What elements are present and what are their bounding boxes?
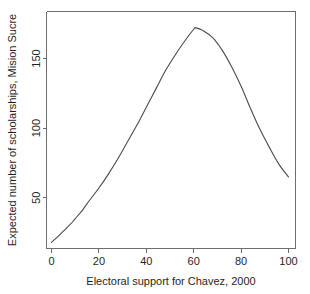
y-tick-label: 150 xyxy=(30,49,42,67)
x-tick-label: 20 xyxy=(93,255,105,267)
x-tick-label: 40 xyxy=(140,255,152,267)
chart-svg: 50100150 020406080100 Electoral support … xyxy=(0,0,310,294)
x-tick-label: 0 xyxy=(48,255,54,267)
chart-container: 50100150 020406080100 Electoral support … xyxy=(0,0,310,294)
y-axis-ticks: 50100150 xyxy=(30,49,46,204)
plot-frame xyxy=(47,12,296,249)
x-tick-label: 100 xyxy=(279,255,297,267)
x-tick-label: 60 xyxy=(188,255,200,267)
data-curve-expected-scholarships xyxy=(52,28,289,243)
y-axis-title: Expected number of scholarships, Mision … xyxy=(6,14,18,246)
x-axis-title: Electoral support for Chavez, 2000 xyxy=(86,275,255,287)
x-tick-label: 80 xyxy=(235,255,247,267)
y-tick-label: 100 xyxy=(30,119,42,137)
x-axis-ticks: 020406080100 xyxy=(48,249,297,267)
y-tick-label: 50 xyxy=(30,192,42,204)
